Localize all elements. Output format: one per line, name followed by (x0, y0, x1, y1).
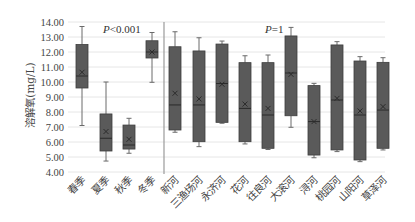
box-秋季 (123, 118, 135, 153)
box-草泽河 (377, 58, 389, 150)
x-tick-label: 冬季 (135, 173, 158, 196)
p-value-rivers: P=1 (264, 23, 283, 35)
x-tick-label: 草泽河 (359, 173, 389, 203)
x-tick-label: 秋季 (112, 173, 135, 196)
x-tick-label: 永济河 (198, 173, 228, 203)
x-axis-labels: 春季夏季秋季冬季新河三渔场河永济河花河往良河大滚河浔河桃园河山阳河草泽河 (65, 173, 389, 210)
boxes (76, 27, 389, 162)
box-冬季 (146, 33, 158, 83)
iqr-box (239, 63, 251, 142)
p-value-seasons: P<0.001 (102, 23, 141, 35)
iqr-box (100, 114, 112, 151)
box-山阳河 (354, 57, 366, 162)
box-花河 (239, 56, 251, 144)
x-tick-label: 夏季 (89, 173, 112, 196)
x-tick-label: 大滚河 (267, 173, 297, 203)
box-新河 (169, 32, 181, 133)
p-value-text: <0.001 (110, 23, 141, 35)
dissolved-oxygen-boxplot: 4.005.006.007.008.009.0010.0011.0012.001… (0, 0, 415, 222)
y-tick-label: 5.00 (46, 152, 64, 163)
box-浔河 (308, 83, 320, 157)
y-tick-label: 9.00 (46, 92, 64, 103)
y-axis-ticks: 4.005.006.007.008.009.0010.0011.0012.001… (40, 17, 64, 178)
iqr-box (377, 62, 389, 148)
iqr-box (169, 47, 181, 130)
box-桃园河 (331, 42, 343, 152)
iqr-box (76, 45, 88, 89)
iqr-box (331, 45, 343, 150)
p-value-text: =1 (272, 23, 284, 35)
y-tick-label: 6.00 (46, 137, 64, 148)
y-tick-label: 4.00 (46, 167, 64, 178)
y-tick-label: 11.00 (41, 62, 64, 73)
y-tick-label: 8.00 (46, 107, 64, 118)
y-axis-label: 溶解氧(mg/L) (24, 62, 36, 127)
box-春季 (76, 27, 88, 126)
box-三渔场河 (193, 38, 205, 147)
box-夏季 (100, 82, 112, 161)
box-大滚河 (285, 27, 297, 127)
y-tick-label: 13.00 (40, 32, 64, 43)
iqr-box (285, 36, 297, 116)
y-tick-label: 10.00 (40, 77, 64, 88)
iqr-box (193, 51, 205, 142)
y-tick-label: 7.00 (46, 122, 64, 133)
y-tick-label: 12.00 (40, 47, 64, 58)
iqr-box (146, 41, 158, 58)
box-永济河 (216, 41, 228, 123)
iqr-box (262, 63, 274, 149)
iqr-box (308, 86, 320, 155)
x-tick-label: 春季 (65, 173, 88, 196)
box-往良河 (262, 55, 274, 150)
y-tick-label: 14.00 (40, 17, 64, 28)
